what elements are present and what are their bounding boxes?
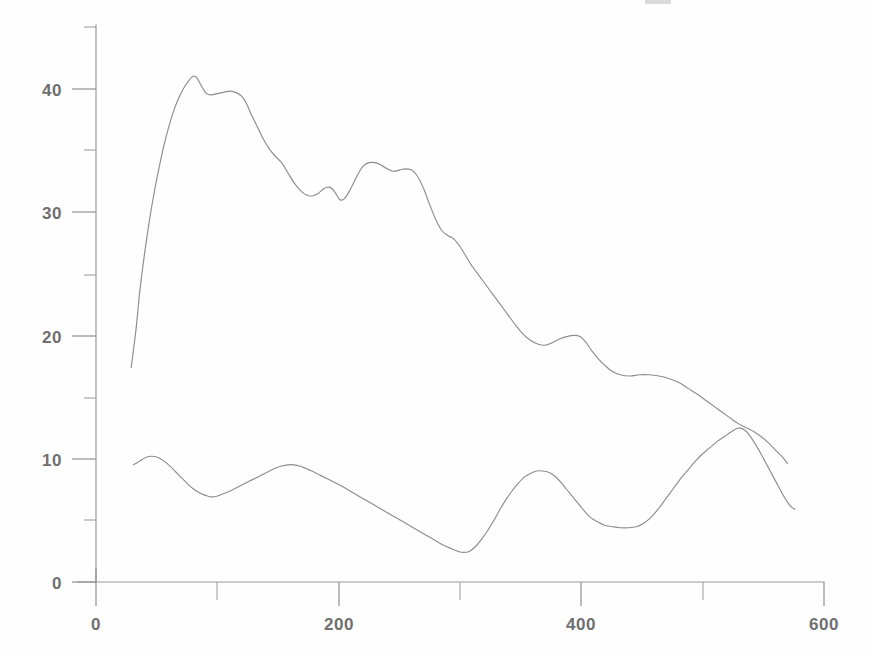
y-tick-label-40: 40	[42, 81, 62, 100]
x-axis-ticks	[96, 568, 824, 606]
y-tick-label-0: 0	[52, 574, 62, 593]
data-curve-lower	[134, 428, 795, 553]
chart-container: 0 10 20 30 40 0 200 400 600	[0, 0, 871, 653]
y-axis-ticks	[72, 27, 96, 582]
x-axis-tick-labels: 0 200 400 600	[91, 615, 839, 634]
x-tick-label-600: 600	[809, 615, 839, 634]
line-chart-svg: 0 10 20 30 40 0 200 400 600	[0, 0, 871, 653]
y-tick-label-20: 20	[42, 328, 62, 347]
data-curve-upper	[131, 76, 787, 464]
y-tick-label-30: 30	[42, 204, 62, 223]
y-axis-tick-labels: 0 10 20 30 40	[42, 81, 62, 593]
y-tick-label-10: 10	[42, 451, 62, 470]
scan-artifact-smudge	[645, 0, 671, 4]
x-tick-label-0: 0	[91, 615, 101, 634]
x-tick-label-400: 400	[566, 615, 596, 634]
x-tick-label-200: 200	[324, 615, 354, 634]
